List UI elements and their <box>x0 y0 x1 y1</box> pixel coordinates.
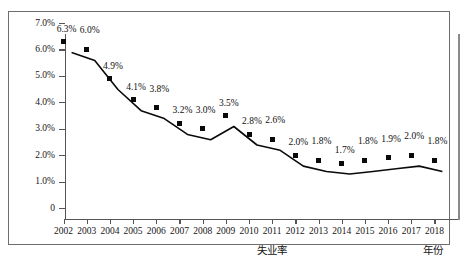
data-point-label: 2.8% <box>242 116 262 126</box>
data-point-marker <box>84 47 89 52</box>
data-point-marker <box>154 105 159 110</box>
y-axis-tick-label: 4.0% <box>9 97 55 107</box>
data-point-marker <box>107 76 112 81</box>
data-point-label: 2.6% <box>265 115 285 125</box>
data-point-label: 2.0% <box>288 137 308 147</box>
data-point-label: 1.9% <box>381 134 401 144</box>
x-axis-tick <box>272 219 273 224</box>
data-point-marker <box>131 97 136 102</box>
x-axis-tick <box>133 219 134 224</box>
data-point-marker <box>409 153 414 158</box>
data-point-label: 3.2% <box>173 105 193 115</box>
x-axis-tick <box>110 219 111 224</box>
y-axis-tick-label: 0 <box>9 203 55 213</box>
data-point-marker <box>432 158 437 163</box>
x-axis-title: 年份 <box>423 242 443 257</box>
x-axis-tick <box>365 219 366 224</box>
data-point-marker <box>293 153 298 158</box>
x-axis-tick <box>203 219 204 224</box>
x-axis-tick <box>434 219 435 224</box>
x-axis-tick <box>342 219 343 224</box>
data-point-label: 2.0% <box>404 131 424 141</box>
x-axis-tick <box>156 219 157 224</box>
y-axis-tick-label: 5.0% <box>9 70 55 80</box>
data-point-marker <box>223 113 228 118</box>
data-point-label: 1.8% <box>312 136 332 146</box>
y-axis-line <box>65 34 66 220</box>
x-axis-tick <box>411 219 412 224</box>
x-axis-tick <box>388 219 389 224</box>
plot-right-border <box>458 34 460 220</box>
data-point-marker <box>386 155 391 160</box>
data-point-marker <box>247 132 252 137</box>
y-axis-tick-label: 6.0% <box>9 44 55 54</box>
data-point-marker <box>362 158 367 163</box>
data-point-label: 4.9% <box>103 61 123 71</box>
data-point-marker <box>61 39 66 44</box>
data-point-marker <box>177 121 182 126</box>
x-axis-tick <box>64 219 65 224</box>
series-legend-label: 失业率 <box>242 242 302 257</box>
chart-frame: 01.0%2.0%3.0%4.0%5.0%6.0%7.0% 2002200320… <box>8 11 450 245</box>
data-point-marker <box>316 158 321 163</box>
data-point-label: 3.8% <box>149 84 169 94</box>
x-axis-tick <box>179 219 180 224</box>
y-axis-tick-label: 7.0% <box>9 18 55 28</box>
data-point-label: 3.0% <box>196 105 216 115</box>
data-point-marker <box>270 137 275 142</box>
x-axis-tick <box>226 219 227 224</box>
x-axis-tick <box>319 219 320 224</box>
data-point-label: 4.1% <box>126 82 146 92</box>
x-axis-tick <box>295 219 296 224</box>
y-axis-tick-label: 1.0% <box>9 176 55 186</box>
data-point-label: 1.8% <box>358 136 378 146</box>
data-point-label: 6.3% <box>57 24 77 34</box>
data-point-label: 3.5% <box>219 98 239 108</box>
data-point-label: 6.0% <box>80 25 100 35</box>
data-point-marker <box>200 126 205 131</box>
data-point-label: 1.7% <box>335 145 355 155</box>
y-axis-tick-label: 2.0% <box>9 150 55 160</box>
data-point-marker <box>339 161 344 166</box>
x-axis-tick <box>87 219 88 224</box>
x-axis-line <box>65 219 459 220</box>
x-axis-tick-label: 2018 <box>419 225 449 237</box>
x-axis-tick <box>249 219 250 224</box>
y-axis-tick-label: 3.0% <box>9 123 55 133</box>
data-point-label: 1.8% <box>428 136 448 146</box>
